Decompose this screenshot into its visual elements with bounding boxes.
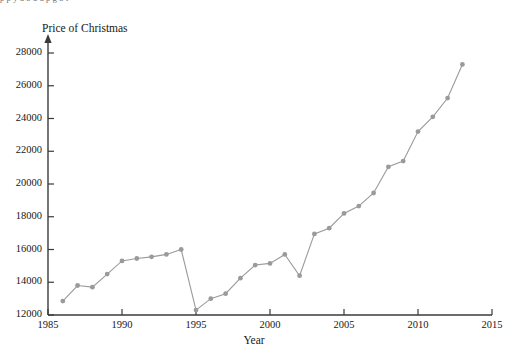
data-point	[297, 273, 302, 278]
data-point	[105, 272, 110, 277]
x-tick-label: 2015	[472, 319, 508, 330]
data-point	[401, 159, 406, 164]
y-tick-label: 28000	[0, 46, 42, 57]
data-point	[164, 252, 169, 257]
y-tick-label: 20000	[0, 177, 42, 188]
x-tick-label: 1995	[176, 319, 216, 330]
y-tick-label: 22000	[0, 144, 42, 155]
data-point	[268, 261, 273, 266]
data-point	[60, 299, 65, 304]
data-point	[253, 263, 258, 268]
series-markers	[60, 62, 464, 312]
data-point	[430, 114, 435, 119]
data-point	[356, 204, 361, 209]
x-tick-label: 2010	[398, 319, 438, 330]
x-tick-label: 1985	[28, 319, 68, 330]
data-point	[282, 252, 287, 257]
x-tick-label: 2005	[324, 319, 364, 330]
y-tick-label: 18000	[0, 210, 42, 221]
data-point	[386, 164, 391, 169]
data-point	[90, 285, 95, 290]
y-axis-arrow	[44, 34, 51, 43]
series-line	[63, 64, 463, 310]
x-tick-label: 2000	[250, 319, 290, 330]
data-point	[327, 226, 332, 231]
data-point	[342, 211, 347, 216]
data-point	[445, 96, 450, 101]
line-plot-canvas	[0, 0, 508, 356]
y-tick-label: 26000	[0, 79, 42, 90]
y-tick-label: 14000	[0, 275, 42, 286]
y-tick-label: 16000	[0, 243, 42, 254]
data-point	[223, 291, 228, 296]
chart-figure: p p y d b d d p g b f Price o	[0, 0, 508, 356]
data-point	[208, 296, 213, 301]
ticks-group	[48, 53, 492, 315]
x-tick-label: 1990	[102, 319, 142, 330]
data-point	[416, 129, 421, 134]
data-point	[134, 256, 139, 261]
axes-group	[44, 34, 492, 315]
data-point	[75, 283, 80, 288]
data-point	[179, 247, 184, 252]
y-tick-label: 12000	[0, 308, 42, 319]
data-point	[149, 254, 154, 259]
data-point	[460, 62, 465, 67]
data-point	[238, 276, 243, 281]
data-point	[371, 191, 376, 196]
data-point	[120, 259, 125, 264]
data-point	[312, 232, 317, 237]
data-point	[194, 308, 199, 313]
y-tick-label: 24000	[0, 112, 42, 123]
